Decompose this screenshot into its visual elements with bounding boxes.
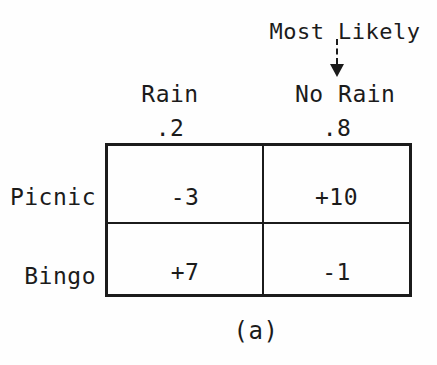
dashed-down-arrow-icon: [330, 39, 344, 77]
cell-bingo-no-rain: -1: [264, 224, 409, 294]
arrow-dash-line: [336, 39, 338, 64]
decision-matrix-figure: Most Likely Rain No Rain .2 .8 Picnic Bi…: [0, 0, 437, 365]
figure-caption: (a): [196, 319, 316, 344]
most-likely-label: Most Likely: [268, 19, 422, 44]
cell-picnic-rain: -3: [108, 146, 262, 222]
cell-picnic-no-rain: +10: [264, 146, 409, 222]
column-header-no-rain: No Rain: [295, 82, 395, 107]
probability-no-rain: .8: [297, 116, 377, 141]
column-header-rain: Rain: [130, 82, 210, 107]
row-label-picnic: Picnic: [0, 185, 96, 210]
row-label-bingo: Bingo: [0, 264, 96, 289]
payoff-table: -3 +10 +7 -1: [105, 143, 412, 297]
probability-rain: .2: [130, 116, 210, 141]
arrow-head: [330, 64, 344, 77]
cell-bingo-rain: +7: [108, 224, 262, 294]
